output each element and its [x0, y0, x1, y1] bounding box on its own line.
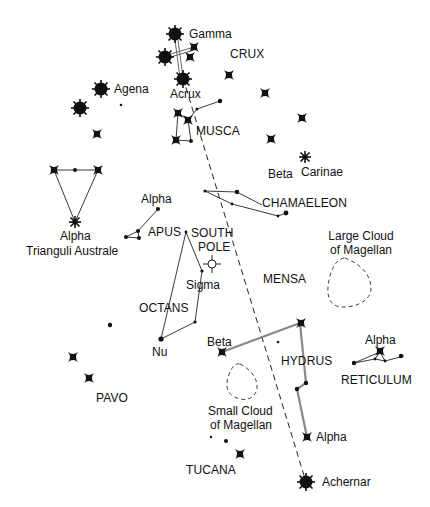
sigma-octantis-star-icon: [200, 269, 203, 272]
star-icon: [231, 203, 234, 206]
crux-star-icon: [156, 48, 174, 66]
star-icon: [185, 231, 188, 234]
acrux-label: Acrux: [170, 87, 201, 101]
large-magellanic-cloud-outline: [328, 258, 371, 307]
star-icon: [235, 449, 245, 459]
star-icon: [374, 358, 377, 361]
achernar-label: Achernar: [322, 475, 371, 489]
star-icon: [297, 113, 307, 123]
beta-carinae-label-2: Carinae: [301, 165, 343, 179]
large-cloud-label-1: Large Cloud: [311, 229, 411, 243]
star-icon: [136, 229, 140, 233]
musca-label: MUSCA: [196, 124, 240, 138]
agena-label: Agena: [114, 82, 149, 96]
pavo-label: PAVO: [96, 391, 128, 405]
alpha-reticuli-star-icon: [375, 346, 385, 356]
large-cloud-label-2: of Magellan: [311, 243, 411, 257]
acrux-star-icon: [174, 70, 192, 88]
octans-label: OCTANS: [139, 301, 189, 315]
south-pole-marker-icon: [203, 255, 221, 273]
star-icon: [124, 235, 128, 239]
star-icon: [68, 352, 78, 362]
hydrus-alpha-label: Alpha: [316, 430, 347, 444]
sigma-label: Sigma: [186, 278, 220, 292]
star-icon: [304, 381, 308, 385]
star-icon: [156, 207, 160, 211]
nu-octantis-star-icon: [158, 336, 163, 341]
hydrus-label: HYDRUS: [281, 354, 332, 368]
star-icon: [218, 99, 222, 103]
star-icon: [235, 190, 239, 194]
star-icon: [203, 189, 206, 192]
apus-alpha-label: Alpha: [141, 192, 172, 206]
small-cloud-label-1: Small Cloud: [208, 404, 273, 418]
star-icon: [384, 360, 387, 363]
star-icon: [210, 436, 212, 438]
star-icon: [189, 139, 193, 143]
star-icon: [284, 211, 289, 216]
triangulum-australe-constellation: [54, 170, 98, 222]
star-icon: [193, 320, 196, 323]
apus-label: APUS: [148, 225, 181, 239]
faint-star-icon: [120, 104, 123, 107]
mensa-label: MENSA: [263, 272, 306, 286]
star-icon: [277, 215, 280, 218]
star-icon: [399, 354, 403, 358]
hadar-neighbor-star-icon: [71, 99, 89, 117]
gamma-label: Gamma: [189, 27, 232, 41]
star-icon: [224, 439, 228, 443]
star-icon: [137, 236, 141, 240]
south-pole-label-2: POLE: [198, 240, 230, 254]
crux-label: CRUX: [230, 47, 264, 61]
tri-alpha-label: Alpha: [60, 229, 91, 243]
star-icon: [224, 70, 234, 80]
agena-star-icon: [92, 80, 110, 98]
beta-carinae-star-icon: [299, 151, 311, 163]
star-icon: [183, 115, 193, 125]
star-icon: [266, 134, 276, 144]
star-icon: [352, 361, 356, 365]
star-icon: [84, 373, 94, 383]
reticulum-label: RETICULUM: [341, 373, 412, 387]
chamaeleon-label: CHAMAELEON: [262, 196, 347, 210]
trianguli-australe-label: Trianguli Australe: [26, 244, 118, 258]
star-icon: [108, 323, 112, 327]
star-icon: [295, 387, 299, 391]
reticulum-alpha-label: Alpha: [365, 333, 396, 347]
alpha-trianguli-australis-star-icon: [69, 216, 81, 228]
achernar-star-icon: [297, 473, 315, 491]
nu-label: Nu: [152, 345, 167, 359]
gamma-crucis-star-icon: [166, 25, 184, 43]
beta-carinae-label-1: Beta: [268, 167, 293, 181]
centaurus-star-icon: [92, 129, 102, 139]
star-icon: [196, 108, 199, 111]
crux-epsilon-star-icon: [185, 52, 195, 62]
hydrus-beta-label: Beta: [207, 335, 232, 349]
star-icon: [277, 341, 280, 344]
star-icon: [260, 88, 270, 98]
star-icon: [73, 168, 77, 172]
south-pole-label-1: SOUTH: [191, 226, 234, 240]
tucana-label: TUCANA: [186, 463, 236, 477]
small-magellanic-cloud-outline: [227, 364, 257, 400]
small-cloud-label-2: of Magellan: [210, 418, 272, 432]
